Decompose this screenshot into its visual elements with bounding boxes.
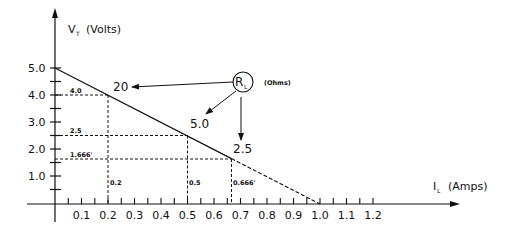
x-ticks [68, 198, 373, 204]
x-axis-subscript: L [437, 187, 441, 194]
label-i-0.666: 0.666' [233, 179, 256, 187]
label-v-4.0: 4.0 [70, 87, 82, 95]
x-axis-unit: (Amps) [448, 180, 488, 193]
y-axis-title: V T (Volts) [68, 23, 121, 37]
guide-labels: 4.0 2.5 1.666' 0.2 0.5 0.666' [70, 87, 256, 187]
axes [27, 8, 460, 222]
guide-lines [55, 95, 232, 204]
rl-value-20: 20 [113, 80, 128, 94]
x-tick-0.5: 0.5 [179, 209, 197, 222]
x-tick-0.6: 0.6 [205, 209, 223, 222]
x-tick-1.1: 1.1 [338, 209, 356, 222]
x-tick-0.3: 0.3 [126, 209, 144, 222]
label-i-0.2: 0.2 [110, 179, 122, 187]
x-axis-symbol: I [433, 180, 436, 193]
x-tick-0.4: 0.4 [152, 209, 170, 222]
x-tick-0.9: 0.9 [285, 209, 303, 222]
x-axis-title: I L (Amps) [433, 180, 488, 194]
x-tick-0.2: 0.2 [99, 209, 117, 222]
x-tick-labels: 0.1 0.2 0.3 0.4 0.5 0.6 0.7 0.8 0.9 1.0 … [73, 209, 382, 222]
y-tick-4: 4.0 [28, 89, 46, 102]
rl-subscript: L [244, 83, 248, 90]
x-axis-arrow-icon [450, 201, 460, 207]
rl-units: (Ohms) [264, 79, 291, 87]
y-axis-arrow-icon [52, 8, 58, 18]
y-axis-subscript: T [75, 30, 80, 37]
rl-value-5.0: 5.0 [190, 117, 209, 131]
load-line-diagram: 5.0 4.0 3.0 2.0 1.0 0.1 0.2 0.3 0.4 0.5 … [0, 0, 509, 234]
y-axis-symbol: V [68, 23, 76, 36]
x-tick-0.7: 0.7 [232, 209, 250, 222]
x-tick-1.0: 1.0 [311, 209, 329, 222]
rl-value-2.5: 2.5 [233, 142, 252, 156]
rl-symbol: R [235, 75, 243, 89]
x-tick-0.8: 0.8 [258, 209, 276, 222]
load-line-solid [55, 68, 232, 159]
y-tick-2: 2.0 [28, 143, 46, 156]
label-v-1.666: 1.666' [70, 151, 93, 159]
arrow-to-5.0 [206, 91, 236, 114]
y-tick-1: 1.0 [28, 170, 46, 183]
y-tick-3: 3.0 [28, 116, 46, 129]
diagram-canvas: 5.0 4.0 3.0 2.0 1.0 0.1 0.2 0.3 0.4 0.5 … [0, 0, 509, 234]
label-v-2.5: 2.5 [70, 127, 82, 135]
arrow-to-20 [132, 82, 233, 87]
y-axis-unit: (Volts) [86, 23, 121, 36]
y-tick-labels: 5.0 4.0 3.0 2.0 1.0 [28, 62, 46, 183]
label-i-0.5: 0.5 [189, 179, 201, 187]
x-tick-1.2: 1.2 [364, 209, 382, 222]
x-tick-0.1: 0.1 [73, 209, 91, 222]
y-tick-5: 5.0 [28, 62, 46, 75]
